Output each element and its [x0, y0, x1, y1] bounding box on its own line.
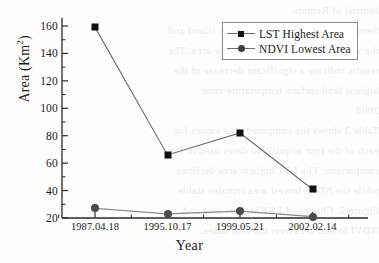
- legend-marker-circle-icon: [227, 42, 255, 56]
- data-point-marker: [237, 129, 244, 136]
- data-point-marker: [309, 186, 316, 193]
- legend-item-ndvi-lowest-area: NDVI Lowest Area: [227, 41, 351, 56]
- data-point-marker: [164, 210, 172, 218]
- legend-item-label: NDVI Lowest Area: [259, 43, 351, 55]
- chart-legend: LST Highest Area NDVI Lowest Area: [222, 22, 358, 60]
- data-point-marker: [236, 207, 244, 215]
- data-point-marker: [92, 24, 99, 31]
- legend-item-label: LST Highest Area: [259, 28, 344, 40]
- data-point-marker: [91, 204, 99, 212]
- chart-figure: Area (Km2) 16014012010080604020 1987.04.…: [0, 0, 379, 263]
- data-point-marker: [309, 213, 317, 221]
- legend-item-lst-highest-area: LST Highest Area: [227, 26, 351, 41]
- legend-marker-square-icon: [227, 27, 255, 41]
- data-point-marker: [164, 151, 171, 158]
